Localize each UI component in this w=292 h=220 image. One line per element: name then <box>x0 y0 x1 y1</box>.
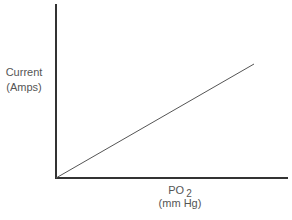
y-axis-label: Current (Amps) <box>2 65 46 95</box>
data-line <box>56 64 254 178</box>
x-axis-label: PO2 (mm Hg) <box>140 184 220 210</box>
x-axis-label-subscript: 2 <box>186 188 192 199</box>
y-axis-label-line2: (Amps) <box>2 80 46 95</box>
x-axis-label-unit: (mm Hg) <box>140 197 220 210</box>
y-axis-label-line1: Current <box>2 65 46 80</box>
x-axis-label-main: PO <box>168 184 184 196</box>
